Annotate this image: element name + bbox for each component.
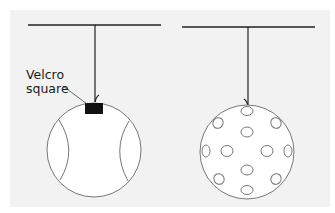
label-line-1: Velcro — [26, 68, 69, 82]
velcro-square-label: Velcro square — [26, 68, 69, 96]
tennis-ball — [47, 103, 141, 197]
wiffle-ball — [200, 105, 294, 199]
diagram-canvas — [0, 0, 335, 213]
label-line-2: square — [26, 82, 69, 96]
velcro-square — [85, 103, 103, 114]
